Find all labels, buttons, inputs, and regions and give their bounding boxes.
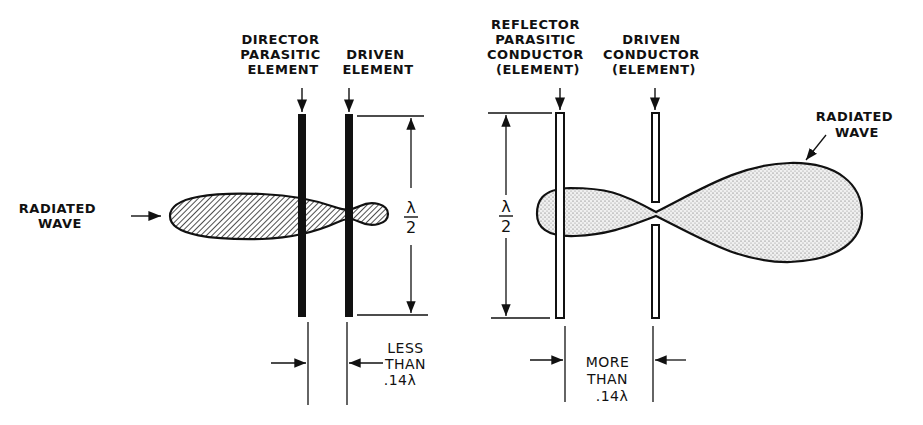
driven-conductor-upper: [652, 113, 659, 202]
driven-element-left: [345, 114, 353, 317]
reflector-label: REFLECTOR PARASITIC CONDUCTOR (ELEMENT): [487, 17, 589, 77]
director-array: DIRECTOR PARASITIC ELEMENT DRIVEN ELEMEN…: [19, 32, 431, 405]
radiation-lobe-hatched: [170, 194, 388, 240]
height-numerator-left: λ: [406, 198, 415, 217]
director-label: DIRECTOR PARASITIC ELEMENT: [240, 32, 325, 77]
driven-element-label: DRIVEN ELEMENT: [342, 47, 413, 77]
reflector-array: REFLECTOR PARASITIC CONDUCTOR (ELEMENT) …: [487, 17, 898, 404]
spacing-label-right: MORE THAN .14λ: [586, 354, 635, 404]
radiated-wave-label-right: RADIATED WAVE: [816, 109, 898, 140]
radiated-wave-leader: [806, 135, 826, 160]
parasitic-array-diagram: DIRECTOR PARASITIC ELEMENT DRIVEN ELEMEN…: [0, 0, 923, 425]
radiated-wave-label-left: RADIATED WAVE: [19, 201, 101, 231]
radiation-lobe-stippled: [537, 163, 862, 262]
height-denominator-right: 2: [501, 217, 511, 236]
driven-conductor-label: DRIVEN CONDUCTOR (ELEMENT): [603, 32, 705, 77]
height-denominator-left: 2: [406, 218, 416, 237]
height-numerator-right: λ: [501, 197, 510, 216]
spacing-label-left: LESS THAN .14λ: [384, 340, 431, 388]
reflector-element: [556, 113, 564, 318]
director-element: [298, 114, 306, 317]
driven-conductor-lower: [652, 225, 659, 318]
